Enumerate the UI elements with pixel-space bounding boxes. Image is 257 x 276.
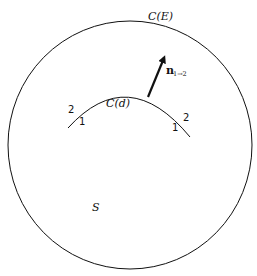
side-label-left-inner: 1	[79, 116, 85, 127]
outer-curve-label: C(E)	[148, 10, 173, 23]
normal-vector-arrow	[148, 58, 164, 97]
side-label-left-outer: 2	[68, 104, 74, 115]
normal-vector-subscript: 1→2	[173, 70, 187, 78]
outer-curve-CE	[8, 21, 252, 269]
inner-curve-label: C(d)	[106, 97, 130, 110]
diagram-canvas: C(E) C(d) S n 1→2 2 1 2 1	[0, 0, 257, 276]
side-label-right-outer: 2	[183, 112, 189, 123]
region-label: S	[92, 201, 100, 214]
side-label-right-inner: 1	[172, 122, 178, 133]
